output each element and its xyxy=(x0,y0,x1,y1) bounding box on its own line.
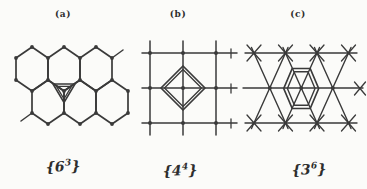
lattice-node-dot xyxy=(110,78,114,82)
square-lattice-diagram xyxy=(142,41,237,135)
schlafli-symbol-square: {44} xyxy=(162,162,197,178)
lattice-node-dot xyxy=(181,86,185,90)
lattice-node-dot xyxy=(284,121,287,124)
figure-canvas: (a) (b) (c) {63} {44} {36} xyxy=(0,0,367,189)
lattice-node-dot xyxy=(315,51,318,54)
symbol-close-brace: } xyxy=(317,161,327,177)
lattice-node-dot xyxy=(126,89,130,93)
lattice-node-dot xyxy=(78,78,82,82)
lattice-node-dot xyxy=(30,89,34,93)
lattice-node-dot xyxy=(62,111,66,115)
lattice-node-dot xyxy=(181,121,185,125)
lattice-node-dot xyxy=(148,86,152,90)
lattice-node-dot xyxy=(347,121,350,124)
lattice-node-dot xyxy=(268,86,272,90)
lattice-node-dot xyxy=(126,111,130,115)
lattice-node-dot xyxy=(315,121,318,124)
lattice-node-dot xyxy=(94,45,98,49)
lattice-node-dot xyxy=(30,45,34,49)
honeycomb-lattice-diagram xyxy=(14,45,130,126)
hexagon-cell xyxy=(80,47,112,91)
lattice-node-dot xyxy=(110,56,114,60)
lattice-node-dot xyxy=(62,45,66,49)
lattice-node-dot xyxy=(78,122,82,126)
lattice-edge-stub xyxy=(112,50,123,58)
symbol-base: 4 xyxy=(171,162,181,178)
lattice-node-dot xyxy=(46,78,50,82)
lattice-node-dot xyxy=(46,122,50,126)
lattice-node-dot xyxy=(331,86,335,90)
lattice-node-dot xyxy=(46,56,50,60)
panel-caption-a: (a) xyxy=(55,9,71,19)
symbol-close-brace: } xyxy=(188,162,198,178)
symbol-base: 6 xyxy=(54,158,64,174)
hexagon-cell xyxy=(16,47,48,91)
lattice-node-dot xyxy=(94,89,98,93)
lattice-node-dot xyxy=(284,51,287,54)
lattice-node-dot xyxy=(181,51,185,55)
lattice-node-dot xyxy=(148,121,152,125)
triangular-lattice-diagram xyxy=(243,45,366,131)
lattice-node-dot xyxy=(62,89,66,93)
lattice-node-dot xyxy=(110,122,114,126)
lattice-node-dot xyxy=(78,56,82,60)
lattice-node-dot xyxy=(214,86,218,90)
lattice-node-dot xyxy=(252,121,255,124)
hexagon-cell xyxy=(96,80,128,124)
panel-caption-b: (b) xyxy=(170,9,186,19)
lattice-node-dot xyxy=(347,51,350,54)
lattice-node-dot xyxy=(14,78,18,82)
lattice-node-dot xyxy=(94,111,98,115)
lattice-node-dot xyxy=(30,111,34,115)
lattice-node-dot xyxy=(148,51,152,55)
lattice-node-dot xyxy=(14,56,18,60)
lattice-edge-stub xyxy=(21,113,32,121)
lattice-node-dot xyxy=(214,121,218,125)
schlafli-symbol-triangular: {36} xyxy=(291,161,326,177)
symbol-base: 3 xyxy=(300,161,310,177)
schlafli-symbol-honeycomb: {63} xyxy=(45,158,80,174)
lattice-node-dot xyxy=(299,86,303,90)
lattice-node-dot xyxy=(214,51,218,55)
panel-caption-c: (c) xyxy=(290,9,306,19)
symbol-close-brace: } xyxy=(71,158,81,174)
lattice-node-dot xyxy=(252,51,255,54)
